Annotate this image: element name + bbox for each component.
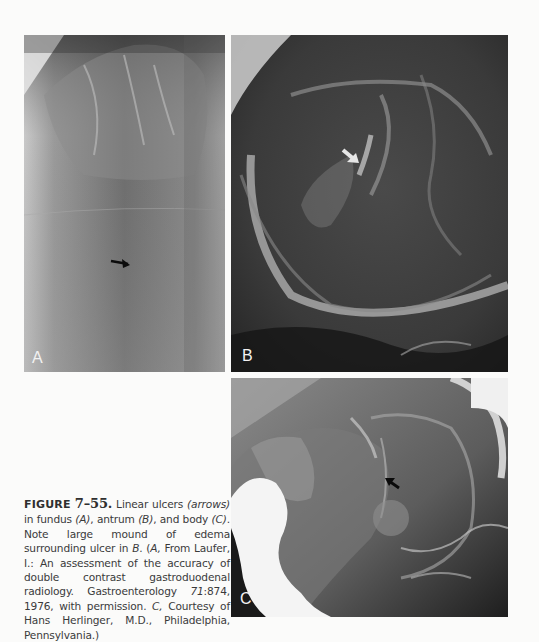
caption-italic: C, (152, 600, 162, 612)
radiograph-panel-a: A (24, 35, 225, 372)
caption-text: , and body (153, 513, 211, 525)
radiograph-image-body (231, 378, 508, 617)
caption-italic: (arrows) (187, 498, 230, 510)
caption-text: , antrum (90, 513, 138, 525)
caption-italic: (B) (138, 513, 153, 525)
panel-label-a: A (32, 350, 43, 366)
figure-number: 7–55. (75, 496, 112, 511)
radiograph-panel-b: B (231, 35, 508, 372)
caption-italic: (A) (75, 513, 90, 525)
caption-text: in fundus (24, 513, 75, 525)
caption-text: Linear ulcers (112, 498, 187, 510)
figure-caption: FIGURE 7–55. Linear ulcers (arrows) in f… (24, 497, 230, 642)
caption-italic: 71 (190, 585, 203, 597)
caption-italic: (C) (212, 513, 227, 525)
caption-italic: A, (150, 542, 161, 554)
radiograph-image-antrum (231, 35, 508, 372)
figure-label: FIGURE (24, 498, 71, 511)
radiograph-panel-c: C (231, 378, 508, 617)
panel-label-c: C (240, 591, 252, 607)
caption-text: . ( (139, 542, 150, 554)
radiograph-image-fundus (24, 35, 225, 372)
panel-label-b: B (242, 348, 253, 364)
